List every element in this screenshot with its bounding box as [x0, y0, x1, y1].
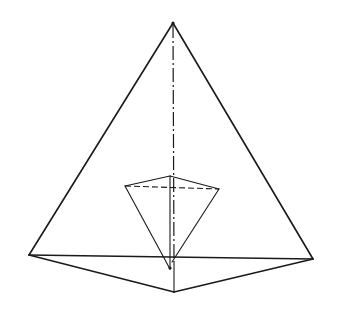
edge-base-left-front [29, 255, 174, 292]
outer-tetrahedron [29, 23, 313, 292]
central-axis [173, 24, 174, 292]
inner-edge-top-back-right [170, 176, 219, 189]
axis-dashed-segment [173, 24, 174, 262]
inner-pyramid [125, 176, 219, 270]
apex-vertex [171, 21, 174, 24]
inner-edge-right-bottom [172, 189, 219, 262]
inner-bottom-vertex [168, 266, 171, 269]
diagram-canvas [0, 0, 342, 312]
tetrahedron-diagram [0, 0, 342, 312]
inner-edge-top-left-back [125, 176, 170, 186]
edge-apex-right [173, 23, 313, 259]
edge-base-right-front [174, 259, 313, 292]
inner-edge-top-left-right-hidden [125, 186, 219, 189]
edge-apex-left [29, 23, 173, 255]
edge-base-left-right [29, 255, 313, 259]
